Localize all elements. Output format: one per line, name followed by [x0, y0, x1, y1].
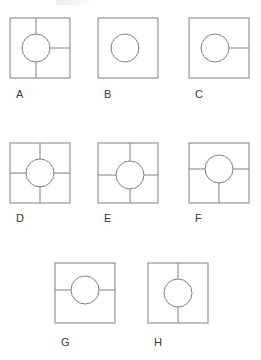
figure-label-d: D — [16, 212, 24, 224]
square-outline — [55, 263, 115, 323]
figure-h — [146, 261, 210, 325]
circle-node — [205, 155, 233, 183]
figure-b-drawing — [96, 16, 160, 80]
figure-g-drawing — [53, 261, 117, 325]
figure-e-drawing — [96, 141, 160, 205]
figure-h-drawing — [146, 261, 210, 325]
circle-node — [71, 276, 99, 304]
figure-label-c: C — [195, 88, 203, 100]
figure-f — [187, 141, 251, 205]
figure-g — [53, 261, 117, 325]
top-edge-artifact — [56, 0, 90, 5]
figure-grid: ABCDEFGH — [0, 0, 261, 360]
circle-node — [201, 34, 229, 62]
figure-label-g: G — [61, 336, 70, 348]
figure-c — [187, 16, 251, 80]
figure-label-h: H — [154, 336, 162, 348]
figure-label-f: F — [195, 212, 202, 224]
figure-b — [96, 16, 160, 80]
figure-a — [8, 16, 72, 80]
square-outline — [98, 18, 158, 78]
figure-e — [96, 141, 160, 205]
square-outline — [98, 143, 158, 203]
circle-node — [22, 34, 50, 62]
figure-label-e: E — [104, 212, 112, 224]
figure-d-drawing — [8, 141, 72, 205]
circle-node — [116, 161, 144, 189]
figure-label-a: A — [16, 88, 24, 100]
circle-node — [164, 279, 192, 307]
figure-d — [8, 141, 72, 205]
circle-node — [111, 34, 139, 62]
figure-c-drawing — [187, 16, 251, 80]
circle-node — [26, 159, 54, 187]
figure-label-b: B — [104, 88, 112, 100]
figure-a-drawing — [8, 16, 72, 80]
figure-f-drawing — [187, 141, 251, 205]
